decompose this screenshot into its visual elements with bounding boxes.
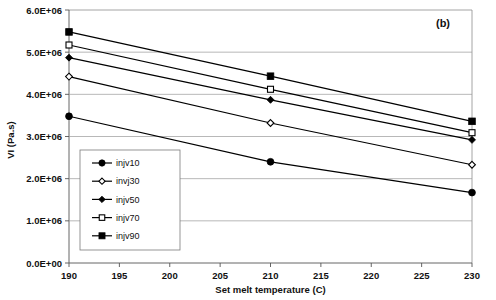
- data-point-filled-circle: [267, 158, 274, 165]
- legend-item-label: invj30: [116, 176, 140, 186]
- y-tick-label: 1.0E+06: [26, 215, 62, 226]
- data-point-filled-circle: [99, 160, 105, 166]
- data-point-filled-square: [469, 118, 476, 125]
- x-tick-label: 220: [363, 270, 379, 281]
- data-point-filled-circle: [469, 189, 476, 196]
- data-point-filled-square: [66, 29, 73, 36]
- x-tick-label: 200: [162, 270, 178, 281]
- data-point-filled-circle: [66, 113, 73, 120]
- y-tick-label: 5.0E+06: [26, 47, 62, 58]
- legend-item-label: injv90: [116, 231, 140, 241]
- legend-item-label: injv10: [116, 158, 140, 168]
- y-tick-label: 3.0E+06: [26, 131, 62, 142]
- y-tick-label: 6.0E+06: [26, 5, 62, 16]
- legend-item-label: injv50: [116, 195, 140, 205]
- x-tick-label: 210: [263, 270, 279, 281]
- data-point-open-square: [268, 86, 274, 92]
- x-axis-title: Set melt temperature (C): [215, 284, 325, 295]
- x-tick-label: 225: [414, 270, 431, 281]
- x-tick-labels: 190195200205210215220225230: [61, 270, 480, 281]
- data-point-filled-square: [99, 233, 105, 239]
- data-point-open-square: [66, 42, 72, 48]
- y-axis-title: VI (Pa.s): [5, 121, 16, 159]
- legend-item-label: injv70: [116, 213, 140, 223]
- data-point-open-diamond: [267, 120, 274, 127]
- x-axis-ticks: [69, 263, 472, 267]
- line-chart: 0.0E+001.0E+062.0E+063.0E+064.0E+065.0E+…: [0, 0, 496, 300]
- y-tick-label: 4.0E+06: [26, 89, 62, 100]
- y-tick-labels: 0.0E+001.0E+062.0E+063.0E+064.0E+065.0E+…: [26, 5, 62, 269]
- data-point-open-square: [99, 215, 105, 221]
- data-point-filled-diamond: [267, 96, 274, 103]
- y-tick-label: 0.0E+00: [26, 258, 62, 269]
- chart-container: 0.0E+001.0E+062.0E+063.0E+064.0E+065.0E+…: [0, 0, 496, 300]
- x-tick-label: 195: [111, 270, 128, 281]
- x-tick-label: 205: [212, 270, 229, 281]
- legend: injv10invj30injv50injv70injv90: [80, 150, 180, 250]
- x-tick-label: 215: [313, 270, 330, 281]
- data-point-open-square: [469, 130, 475, 136]
- x-tick-label: 190: [61, 270, 77, 281]
- x-tick-label: 230: [464, 270, 480, 281]
- panel-label: (b): [436, 17, 450, 29]
- data-point-open-diamond: [469, 161, 476, 168]
- data-point-filled-diamond: [469, 136, 476, 143]
- data-point-filled-diamond: [66, 54, 73, 61]
- data-point-filled-square: [267, 73, 274, 80]
- y-tick-label: 2.0E+06: [26, 173, 62, 184]
- series-injv90: [66, 29, 476, 125]
- data-point-open-diamond: [66, 73, 73, 80]
